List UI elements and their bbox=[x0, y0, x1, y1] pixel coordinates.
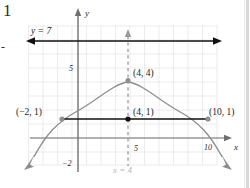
point-midpoint bbox=[125, 116, 130, 121]
label-left-point: (−2, 1) bbox=[16, 107, 42, 118]
tick-label-x-5: 5 bbox=[134, 144, 138, 153]
y-axis-arrow bbox=[75, 8, 81, 16]
label-right-point: (10, 1) bbox=[209, 107, 234, 118]
graph-figure: y x y = 7 x = 4 bbox=[0, 0, 250, 188]
x-axis-arrow bbox=[224, 135, 232, 141]
point-right-intersection bbox=[205, 116, 210, 121]
point-vertex bbox=[126, 78, 131, 83]
tick-label-y-5: 5 bbox=[69, 64, 73, 73]
page-edge-rule-secondary bbox=[244, 0, 245, 188]
tick-label-y-neg2: −2 bbox=[62, 159, 71, 168]
line-y-equals-7 bbox=[26, 37, 222, 45]
grid-lines bbox=[29, 25, 218, 165]
y7-left-arrow bbox=[26, 37, 35, 45]
x-axis-label: x bbox=[233, 142, 238, 152]
coordinate-axes bbox=[30, 8, 232, 172]
figure-page: 1 - bbox=[0, 0, 250, 188]
y-axis-label: y bbox=[84, 8, 89, 18]
label-x-equals-4: x = 4 bbox=[112, 165, 133, 175]
label-vertex: (4, 4) bbox=[133, 68, 154, 79]
point-left-intersection bbox=[59, 116, 64, 121]
tick-label-x-10: 10 bbox=[204, 143, 212, 152]
parabola-right-arrow bbox=[221, 155, 232, 170]
parabola-left-arrow bbox=[24, 155, 35, 170]
y7-right-arrow bbox=[213, 37, 222, 45]
page-edge-rule bbox=[246, 0, 249, 188]
label-midpoint: (4, 1) bbox=[133, 107, 154, 118]
label-y-equals-7: y = 7 bbox=[30, 26, 52, 36]
